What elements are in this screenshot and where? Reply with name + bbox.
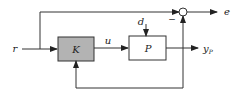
- summing-junction: [179, 8, 187, 16]
- block-diagram: K u P d yP − e r: [0, 0, 246, 93]
- control-signal-label: u: [105, 35, 111, 46]
- minus-sign: −: [168, 14, 176, 24]
- reference-label: r: [13, 43, 19, 54]
- output-label: yP: [202, 43, 214, 55]
- controller-label: K: [71, 44, 80, 55]
- disturbance-label: d: [138, 16, 144, 27]
- feedback-to-controller-path: [76, 60, 183, 88]
- error-label: e: [224, 6, 230, 17]
- plant-label: P: [144, 43, 152, 54]
